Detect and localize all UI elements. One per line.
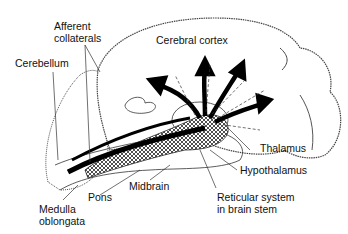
label-oblongata: oblongata [39, 216, 85, 227]
label-cerebral-cortex: Cerebral cortex [156, 35, 228, 46]
label-midbrain: Midbrain [129, 181, 169, 192]
label-medulla: Medulla [39, 204, 76, 215]
label-hypothalamus: Hypothalamus [240, 165, 307, 176]
label-reticular-brain-stem: in brain stem [217, 204, 277, 215]
label-afferent: Afferent [54, 21, 91, 32]
label-reticular-system: Reticular system [217, 192, 295, 203]
label-thalamus: Thalamus [260, 143, 306, 154]
label-cerebellum: Cerebellum [15, 58, 69, 69]
label-collaterals: collaterals [54, 33, 101, 44]
label-pons: Pons [88, 192, 112, 203]
